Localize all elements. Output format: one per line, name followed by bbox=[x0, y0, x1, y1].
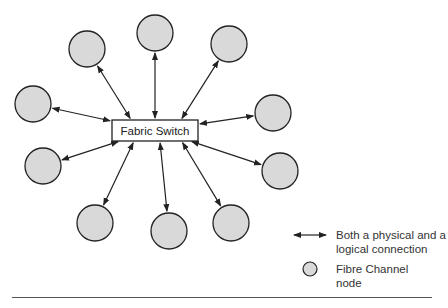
fibre-channel-node bbox=[255, 95, 291, 131]
legend-node-icon bbox=[303, 262, 317, 276]
connection-arrow bbox=[53, 108, 111, 120]
fabric-switch-label: Fabric Switch bbox=[112, 120, 198, 141]
legend-arrow-text: Both a physical and a logical connection bbox=[336, 228, 446, 256]
connection-arrow bbox=[200, 116, 253, 124]
connection-arrow bbox=[62, 142, 118, 160]
legend-node-line2: node bbox=[336, 276, 408, 290]
fibre-channel-node bbox=[77, 205, 113, 241]
fibre-channel-node bbox=[211, 26, 247, 62]
fibre-channel-node bbox=[15, 86, 51, 122]
fibre-channel-node bbox=[213, 205, 249, 241]
connection-arrow bbox=[183, 143, 221, 206]
fibre-channel-node bbox=[151, 213, 187, 249]
legend-node-line1: Fibre Channel bbox=[336, 262, 408, 276]
fibre-channel-node bbox=[137, 15, 173, 51]
connection-arrow bbox=[98, 66, 131, 118]
fibre-channel-node bbox=[262, 153, 298, 189]
connection-arrow bbox=[182, 61, 218, 118]
connection-arrow bbox=[104, 143, 134, 205]
legend-arrow-line2: logical connection bbox=[336, 242, 446, 256]
connection-arrow bbox=[192, 142, 261, 165]
legend-arrow-line1: Both a physical and a bbox=[336, 228, 446, 242]
legend-node-text: Fibre Channel node bbox=[336, 262, 408, 290]
fibre-channel-node bbox=[69, 31, 105, 67]
bottom-rule bbox=[12, 297, 432, 298]
connection-arrow bbox=[160, 143, 167, 211]
fibre-channel-node bbox=[25, 148, 61, 184]
